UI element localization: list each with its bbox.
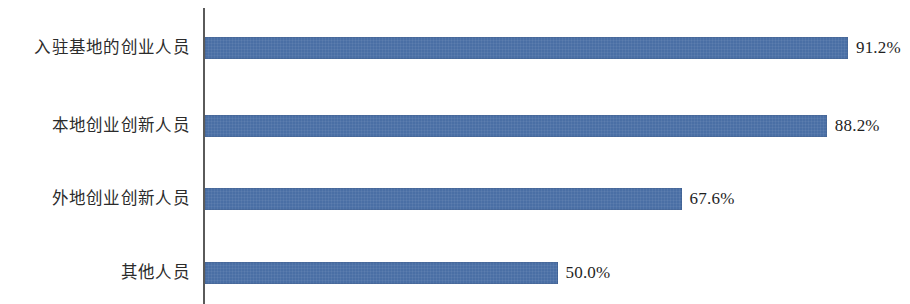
bar-track [205,115,827,137]
bar-chart: 入驻基地的创业人员 91.2% 本地创业创新人员 88.2% 外地创业创新人员 … [0,0,910,304]
bar-row[interactable]: 入驻基地的创业人员 91.2% [0,37,910,59]
category-label: 其他人员 [0,264,190,282]
bar-value-label: 91.2% [856,38,901,58]
category-label: 外地创业创新人员 [0,190,190,208]
bar-row[interactable]: 其他人员 50.0% [0,262,910,284]
bar-fill[interactable] [205,37,848,59]
bar-row[interactable]: 外地创业创新人员 67.6% [0,188,910,210]
bar-track [205,262,558,284]
bar-value-label: 50.0% [566,263,611,283]
bar-fill[interactable] [205,262,558,284]
category-label: 本地创业创新人员 [0,117,190,135]
bar-row[interactable]: 本地创业创新人员 88.2% [0,115,910,137]
bar-fill[interactable] [205,115,827,137]
bar-value-label: 88.2% [835,116,880,136]
bar-fill[interactable] [205,188,682,210]
bar-track [205,188,682,210]
bar-track [205,37,848,59]
category-label: 入驻基地的创业人员 [0,39,190,57]
bar-value-label: 67.6% [690,189,735,209]
plot-area: 入驻基地的创业人员 91.2% 本地创业创新人员 88.2% 外地创业创新人员 … [0,0,910,304]
